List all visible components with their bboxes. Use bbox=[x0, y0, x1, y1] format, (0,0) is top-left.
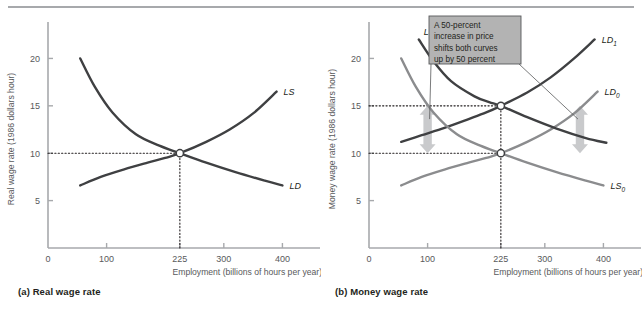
annotation-line: A 50-percent bbox=[434, 21, 481, 30]
curve-label-LS0: LS0 bbox=[610, 181, 625, 193]
curve-label-LD: LD bbox=[289, 181, 301, 191]
caption-panel-a: (a) Real wage rate bbox=[18, 286, 101, 297]
x-tick-label: 300 bbox=[537, 254, 552, 264]
x-tick-label: 400 bbox=[596, 254, 611, 264]
curve-path bbox=[80, 58, 282, 185]
x-tick-label: 225 bbox=[493, 254, 508, 264]
caption-panel-b: (b) Money wage rate bbox=[335, 286, 428, 297]
x-tick-label: 225 bbox=[172, 254, 187, 264]
x-axis-title: Employment (billions of hours per year) bbox=[494, 267, 642, 277]
top-divider-rule bbox=[8, 6, 634, 8]
equilibrium-point bbox=[497, 150, 504, 157]
x-tick-label: 0 bbox=[45, 254, 50, 264]
y-axis-title: Real wage rate (1986 dollars hour) bbox=[6, 73, 16, 205]
chart-money-wage-rate: 51015200100225300400Employment (billions… bbox=[321, 12, 642, 282]
axes: 51015200100225300400 bbox=[30, 22, 320, 264]
y-tick-label: 10 bbox=[351, 149, 361, 159]
y-tick-label: 15 bbox=[30, 101, 40, 111]
x-tick-label: 0 bbox=[366, 254, 371, 264]
equilibrium-point bbox=[497, 102, 504, 109]
curve-label-LS: LS bbox=[284, 87, 295, 97]
annotation-line: shifts both curves bbox=[434, 44, 498, 53]
y-tick-label: 5 bbox=[356, 196, 361, 206]
x-tick-label: 300 bbox=[216, 254, 231, 264]
curve-path bbox=[80, 92, 276, 186]
x-tick-label: 100 bbox=[420, 254, 435, 264]
panel-real-wage-rate: 51015200100225300400Employment (billions… bbox=[0, 12, 321, 307]
curve-label-LD0: LD0 bbox=[605, 87, 621, 99]
curve-LD: LD bbox=[80, 58, 301, 191]
panel-money-wage-rate: 51015200100225300400Employment (billions… bbox=[321, 12, 642, 307]
x-tick-label: 400 bbox=[275, 254, 290, 264]
y-tick-label: 15 bbox=[351, 101, 361, 111]
x-tick-label: 100 bbox=[99, 254, 114, 264]
y-tick-label: 20 bbox=[351, 54, 361, 64]
curve-label-LD1: LD1 bbox=[602, 35, 618, 47]
annotation-line: up by 50 percent bbox=[434, 55, 496, 64]
chart-real-wage-rate: 51015200100225300400Employment (billions… bbox=[0, 12, 321, 282]
y-axis-title: Money wage rate (1986 dollars hour) bbox=[327, 69, 337, 210]
y-tick-label: 20 bbox=[30, 54, 40, 64]
equilibrium-point bbox=[176, 150, 183, 157]
annotation-line: increase in price bbox=[434, 32, 494, 41]
x-axis-title: Employment (billions of hours per year) bbox=[173, 267, 322, 277]
curve-LS: LS bbox=[80, 87, 294, 185]
y-tick-label: 5 bbox=[35, 196, 40, 206]
y-tick-label: 10 bbox=[30, 149, 40, 159]
